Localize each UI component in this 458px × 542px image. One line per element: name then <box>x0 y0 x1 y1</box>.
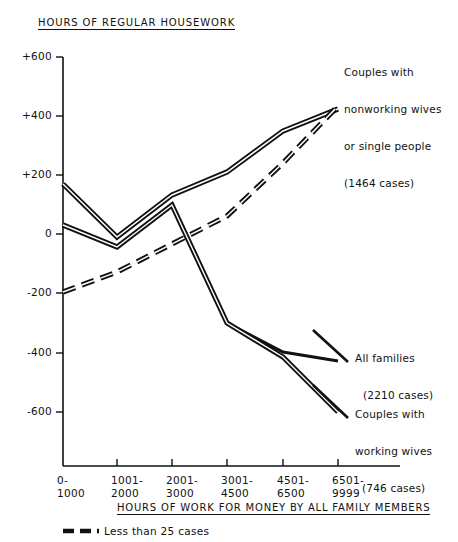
ytick-label-600: +600 <box>8 50 52 62</box>
xtick-line2: 3000 <box>166 487 214 500</box>
xtick-line1: 4501- <box>277 474 325 487</box>
ytick-label-neg200: -200 <box>8 286 52 298</box>
ytick-label-neg400: -400 <box>8 346 52 358</box>
xtick-label-4501-6500: 4501- 6500 <box>277 474 325 499</box>
xtick-line2: 2000 <box>111 487 159 500</box>
xtick-line2: 4500 <box>221 487 269 500</box>
xtick-label-0-1000: 0- 1000 <box>57 474 105 499</box>
xtick-line1: 2001- <box>166 474 214 487</box>
annot-line-3: (746 cases) <box>355 482 432 494</box>
x-axis-title: HOURS OF WORK FOR MONEY BY ALL FAMILY ME… <box>117 502 430 515</box>
xtick-line1: 3001- <box>221 474 269 487</box>
annot-working-wives: Couples with working wives (746 cases) <box>355 383 432 519</box>
xtick-label-1001-2000: 1001- 2000 <box>111 474 159 499</box>
ytick-label-200: +200 <box>8 168 52 180</box>
annot-line-1: Couples with <box>355 408 432 420</box>
xtick-line1: 0- <box>57 474 105 487</box>
xtick-label-2001-3000: 2001- 3000 <box>166 474 214 499</box>
annot-line-4: (1464 cases) <box>344 177 442 189</box>
xtick-label-3001-4500: 3001- 4500 <box>221 474 269 499</box>
series-nonworking-wives-solid <box>63 109 338 237</box>
xtick-line1: 1001- <box>111 474 159 487</box>
xtick-line2: 1000 <box>57 487 105 500</box>
housework-line-chart: HOURS OF REGULAR HOUSEWORK <box>0 0 458 542</box>
series-working-wives <box>63 205 338 412</box>
annot-line-3: or single people <box>344 140 442 152</box>
annot-line-2: nonworking wives <box>344 103 442 115</box>
xtick-line2: 6500 <box>277 487 325 500</box>
annot-nonworking-wives: Couples with nonworking wives or single … <box>344 41 442 215</box>
ytick-label-400: +400 <box>8 109 52 121</box>
ytick-label-neg600: -600 <box>8 405 52 417</box>
annot-line-1: Couples with <box>344 66 442 78</box>
ytick-label-0: 0 <box>8 227 52 239</box>
annot-line-1: All families <box>355 352 433 364</box>
annot-line-2: working wives <box>355 445 432 457</box>
legend-label-less-than-25-cases: Less than 25 cases <box>104 525 209 537</box>
